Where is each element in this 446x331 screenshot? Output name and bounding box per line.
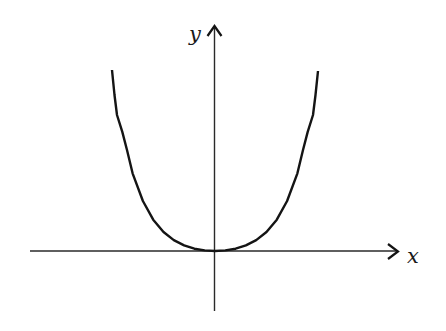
function-graph: y x: [0, 0, 446, 331]
y-axis-label: y: [189, 24, 201, 45]
x-axis-label: x: [407, 246, 419, 267]
